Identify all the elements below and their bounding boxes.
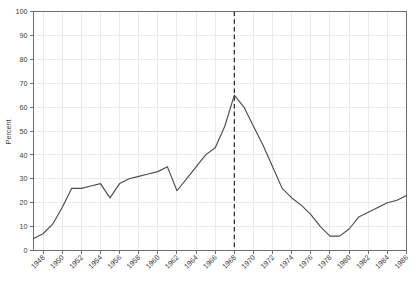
x-tick-label: 1958: [125, 253, 143, 271]
x-axis-tick-labels-group: 1948195019521954195619581960196219641966…: [29, 253, 410, 271]
y-tick-label: 30: [20, 174, 28, 183]
gridlines-group: [34, 12, 407, 251]
y-tick-label: 40: [20, 151, 28, 160]
x-tick-label: 1954: [86, 253, 104, 271]
line-chart: 0102030405060708090100 19481950195219541…: [0, 0, 418, 287]
x-tick-label: 1952: [67, 253, 85, 271]
y-tick-label: 60: [20, 103, 28, 112]
x-tick-label: 1980: [335, 253, 353, 271]
x-tick-label: 1966: [201, 253, 219, 271]
y-tick-label: 0: [24, 246, 28, 255]
y-tick-label: 50: [20, 127, 28, 136]
x-tick-label: 1956: [106, 253, 124, 271]
x-tick-label: 1962: [163, 253, 181, 271]
x-tick-label: 1982: [354, 253, 372, 271]
x-tick-label: 1964: [182, 253, 200, 271]
x-tick-label: 1986: [392, 253, 410, 271]
x-tick-label: 1978: [316, 253, 334, 271]
x-tick-label: 1950: [48, 253, 66, 271]
data-series-group: [34, 95, 407, 238]
x-tick-label: 1972: [259, 253, 277, 271]
x-tick-label: 1984: [373, 253, 391, 271]
x-tick-label: 1976: [297, 253, 315, 271]
x-tick-label: 1974: [278, 253, 296, 271]
chart-container: 0102030405060708090100 19481950195219541…: [0, 0, 418, 287]
y-tick-label: 10: [20, 222, 28, 231]
y-tick-label: 100: [16, 7, 28, 16]
y-tick-label: 90: [20, 31, 28, 40]
series-line-0: [34, 95, 407, 238]
x-tick-label: 1960: [144, 253, 162, 271]
x-tick-label: 1970: [239, 253, 257, 271]
y-axis-ticks-group: [30, 12, 34, 251]
x-tick-label: 1948: [29, 253, 47, 271]
y-tick-label: 80: [20, 55, 28, 64]
x-tick-label: 1968: [220, 253, 238, 271]
y-tick-label: 70: [20, 79, 28, 88]
y-tick-label: 20: [20, 198, 28, 207]
y-axis-tick-labels-group: 0102030405060708090100: [16, 7, 28, 255]
y-axis-title: Percent: [4, 120, 13, 145]
